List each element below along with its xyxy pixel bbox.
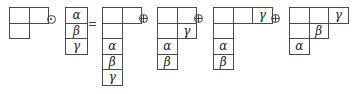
tableau-cell: β xyxy=(309,23,330,40)
tableau-cell xyxy=(309,7,330,24)
tableau-cell xyxy=(9,7,30,24)
tableau-cell: β xyxy=(102,54,123,71)
tableau-cell: α xyxy=(65,7,88,24)
tableau-cell xyxy=(102,23,123,40)
tableau-cell xyxy=(289,23,310,40)
tableau-cell xyxy=(29,7,50,24)
tableau-cell: β xyxy=(213,54,234,71)
tableau-cell xyxy=(157,7,178,24)
tableau-cell xyxy=(102,7,123,24)
tableau-cell: γ xyxy=(65,38,88,55)
tableau-cell xyxy=(9,23,30,40)
tableau-cell: α xyxy=(289,38,310,55)
tableau-cell: β xyxy=(157,54,178,71)
tableau-cell xyxy=(213,23,234,40)
tableau-cell: α xyxy=(157,38,178,55)
tableau-cell: γ xyxy=(252,7,273,24)
tableau-cell: α xyxy=(102,38,123,55)
tableau-cell: γ xyxy=(177,23,198,40)
tableau-cell: γ xyxy=(102,69,123,86)
tableau-cell xyxy=(213,7,234,24)
tableau-cell: γ xyxy=(328,7,349,24)
tableau-cell: α xyxy=(213,38,234,55)
tableau-cell: β xyxy=(65,23,88,40)
tableau-cell xyxy=(289,7,310,24)
tableau-cell xyxy=(157,23,178,40)
tableau-cell xyxy=(233,7,254,24)
